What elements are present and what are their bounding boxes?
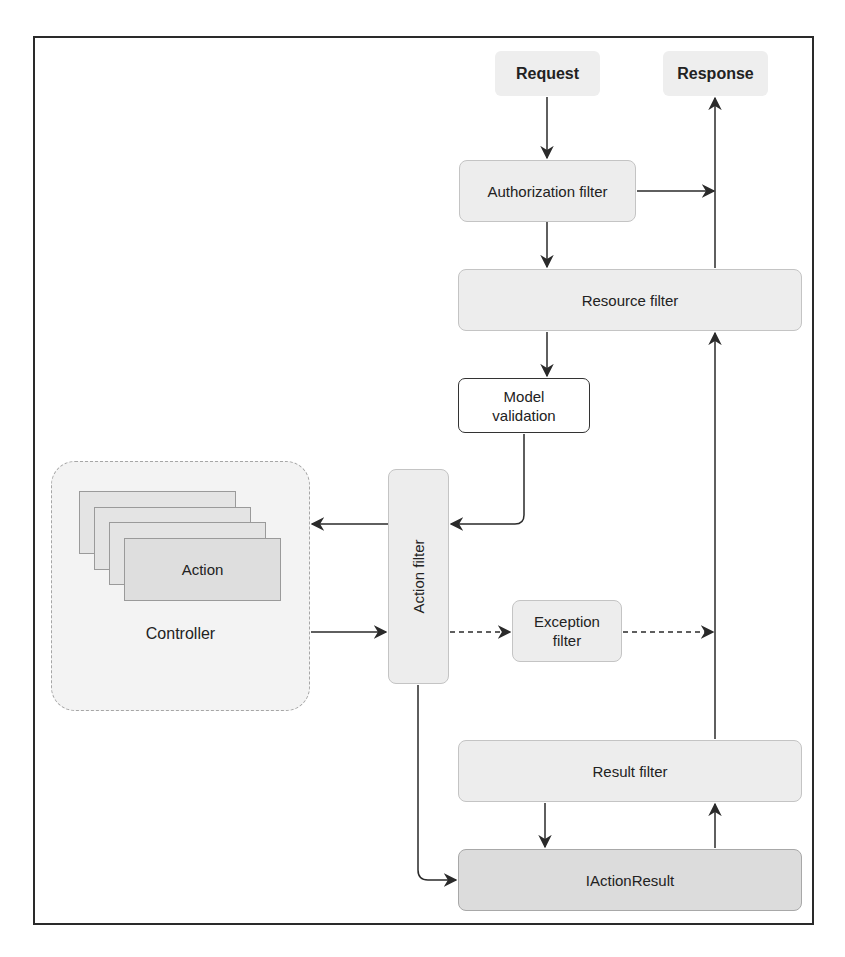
arrow-action-filter-to-iactionresult xyxy=(418,685,456,880)
connector-arrows xyxy=(0,0,845,957)
arrow-model-validation-to-action-filter xyxy=(451,434,524,524)
